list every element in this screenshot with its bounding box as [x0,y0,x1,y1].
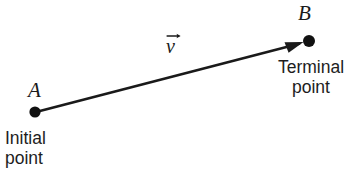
initial-point-caption-line1: Initial [5,128,46,148]
terminal-point-caption-line2: point [263,78,359,98]
terminal-point-caption: Terminal point [263,58,359,97]
vector-diagram: A B v Initial point Terminal point [0,0,361,180]
vector-overarrow-icon [166,32,181,39]
point-label-b: B [298,2,311,26]
vector-label: v [166,33,175,57]
initial-point-caption: Initial point [5,129,46,168]
vector-label-wrap: v [166,33,175,57]
initial-point-dot [29,106,40,117]
vector-arrowhead [285,42,304,53]
initial-point-caption-line2: point [5,149,46,169]
terminal-point-caption-line1: Terminal [278,57,344,77]
point-label-a: A [28,79,41,103]
terminal-point-dot [303,35,315,47]
